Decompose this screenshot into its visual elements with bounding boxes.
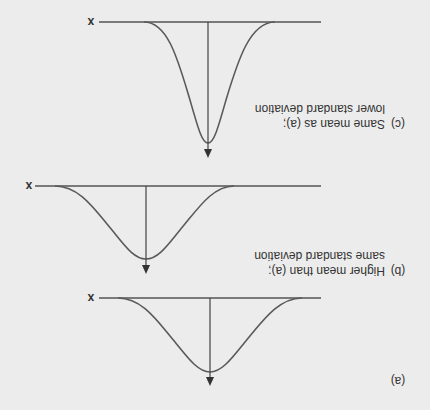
panel-a: x (a) [87,291,405,388]
panel-c-caption-line1: Same mean as (a); [283,117,385,131]
panel-b-axis-label: x [25,179,32,193]
panel-a-label: (a) [391,374,406,388]
panel-c-label: (c) [391,117,405,131]
panel-c-distribution-curve [144,22,275,143]
panel-b-caption-line1: Higher mean than (a); [268,264,385,278]
panel-c: x (c) Same mean as (a); lower standard d… [87,15,405,158]
panel-b-label: (b) [391,264,406,278]
panel-a-mean-arrow-icon [206,377,214,386]
panel-c-axis-label: x [87,15,94,29]
panel-b: x (b) Higher mean than (a); same standar… [25,179,405,278]
panel-c-caption-line2: lower standard deviation [255,102,385,116]
normal-distribution-comparison-diagram: x (c) Same mean as (a); lower standard d… [0,0,430,410]
panel-c-mean-arrow-icon [204,149,212,158]
panel-b-mean-arrow-icon [142,265,150,274]
panel-b-caption-line2: same standard deviation [254,249,385,263]
panel-a-axis-label: x [87,291,94,305]
panel-b-distribution-curve [55,186,234,259]
